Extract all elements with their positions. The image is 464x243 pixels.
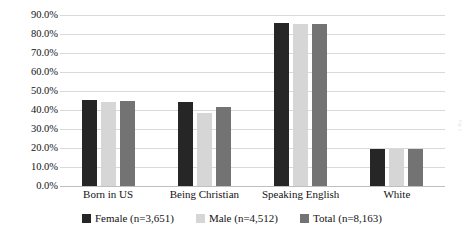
gridline xyxy=(60,186,445,187)
y-axis-tick-label: 70.0% xyxy=(4,48,58,58)
bar[interactable] xyxy=(101,102,116,186)
bar[interactable] xyxy=(293,24,308,186)
bar[interactable] xyxy=(274,23,289,186)
y-axis-tick-label: 50.0% xyxy=(4,86,58,96)
y-axis: 0.0%10.0%20.0%30.0%40.0%50.0%60.0%70.0%8… xyxy=(0,15,58,186)
legend-label: Total (n=8,163) xyxy=(313,212,382,224)
legend-swatch-icon xyxy=(82,214,91,223)
bar[interactable] xyxy=(389,149,404,186)
x-axis-tick-label: White xyxy=(349,188,445,200)
bar-chart: 0.0%10.0%20.0%30.0%40.0%50.0%60.0%70.0%8… xyxy=(0,0,464,243)
bar[interactable] xyxy=(82,100,97,186)
bar[interactable] xyxy=(408,149,423,186)
y-axis-tick-label: 60.0% xyxy=(4,67,58,77)
y-axis-tick-label: 10.0% xyxy=(4,162,58,172)
legend-swatch-icon xyxy=(300,214,309,223)
y-axis-tick-label: 20.0% xyxy=(4,143,58,153)
bar-group xyxy=(370,15,423,186)
legend-item[interactable]: Male (n=4,512) xyxy=(196,212,278,224)
y-axis-tick-label: 30.0% xyxy=(4,124,58,134)
legend-item[interactable]: Total (n=8,163) xyxy=(300,212,382,224)
bar[interactable] xyxy=(370,149,385,186)
y-axis-tick-label: 80.0% xyxy=(4,29,58,39)
bar-group xyxy=(82,15,135,186)
bar[interactable] xyxy=(178,102,193,186)
bar[interactable] xyxy=(312,24,327,186)
bar[interactable] xyxy=(120,101,135,187)
legend-label: Male (n=4,512) xyxy=(209,212,278,224)
legend-item[interactable]: Female (n=3,651) xyxy=(82,212,174,224)
x-axis-tick-label: Born in US xyxy=(60,188,156,200)
legend-label: Female (n=3,651) xyxy=(95,212,174,224)
watermark-text: fig 1 xyxy=(458,120,463,132)
chart-legend: Female (n=3,651)Male (n=4,512)Total (n=8… xyxy=(0,209,464,227)
x-axis-tick-label: Speaking English xyxy=(253,188,349,200)
bars-layer xyxy=(60,15,445,186)
y-axis-tick-label: 0.0% xyxy=(4,181,58,191)
y-axis-tick-label: 90.0% xyxy=(4,10,58,20)
bar[interactable] xyxy=(197,113,212,186)
y-axis-tick-label: 40.0% xyxy=(4,105,58,115)
bar-group xyxy=(178,15,231,186)
x-axis-tick-label: Being Christian xyxy=(156,188,252,200)
bar-group xyxy=(274,15,327,186)
legend-swatch-icon xyxy=(196,214,205,223)
bar[interactable] xyxy=(216,107,231,186)
x-axis: Born in USBeing ChristianSpeaking Englis… xyxy=(60,188,445,206)
